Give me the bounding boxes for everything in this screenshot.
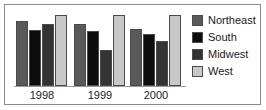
bar-1999-midwest bbox=[100, 50, 112, 86]
bar-1998-south bbox=[29, 30, 41, 86]
bars-layer bbox=[10, 8, 186, 86]
bar-group-2000 bbox=[128, 8, 184, 86]
bar-1999-south bbox=[87, 31, 99, 86]
legend-label-midwest: Midwest bbox=[208, 48, 248, 60]
legend-label-south: South bbox=[208, 31, 237, 43]
bar-1998-midwest bbox=[42, 24, 54, 86]
bar-group-1998 bbox=[14, 8, 70, 86]
legend-swatch-midwest-icon bbox=[192, 49, 203, 60]
x-tick-label-1999: 1999 bbox=[72, 89, 128, 101]
bar-2000-south bbox=[143, 34, 155, 86]
legend-swatch-northeast-icon bbox=[192, 15, 203, 26]
bar-chart-figure: 1998 1999 2000 Northeast South Midwest W… bbox=[0, 0, 266, 110]
bar-2000-west bbox=[169, 15, 181, 86]
bar-1999-northeast bbox=[74, 24, 86, 86]
bar-1999-west bbox=[113, 15, 125, 86]
x-tick-label-1998: 1998 bbox=[14, 89, 70, 101]
legend-label-northeast: Northeast bbox=[208, 14, 256, 26]
legend-item-northeast: Northeast bbox=[192, 12, 258, 28]
legend-item-midwest: Midwest bbox=[192, 46, 258, 62]
plot-area: 1998 1999 2000 bbox=[10, 8, 186, 102]
bar-1998-west bbox=[55, 15, 67, 86]
legend-swatch-south-icon bbox=[192, 32, 203, 43]
bar-2000-northeast bbox=[130, 29, 142, 86]
chart-legend: Northeast South Midwest West bbox=[192, 12, 258, 80]
x-tick-label-2000: 2000 bbox=[128, 89, 184, 101]
legend-label-west: West bbox=[208, 65, 233, 77]
bar-1998-northeast bbox=[16, 21, 28, 86]
legend-swatch-west-icon bbox=[192, 66, 203, 77]
x-axis-line bbox=[14, 86, 186, 87]
bar-2000-midwest bbox=[156, 41, 168, 86]
legend-item-south: South bbox=[192, 29, 258, 45]
bar-group-1999 bbox=[72, 8, 128, 86]
legend-item-west: West bbox=[192, 63, 258, 79]
